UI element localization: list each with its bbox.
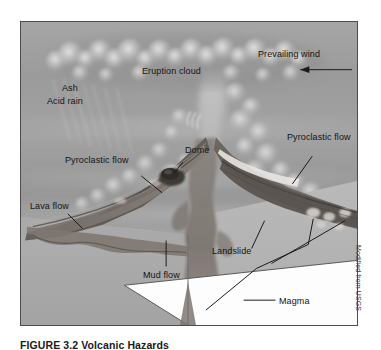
label-acid-rain: Acid rain [47, 96, 83, 107]
label-magma: Magma [279, 296, 310, 307]
label-mud-flow: Mud flow [143, 270, 180, 281]
lava-dome [159, 168, 185, 186]
source-credit: Modified from USGS [352, 245, 364, 335]
label-eruption-cloud: Eruption cloud [142, 66, 201, 77]
label-pyroclastic-flow-left: Pyroclastic flow [65, 155, 129, 166]
figure-caption-text: Volcanic Hazards [81, 339, 169, 350]
label-landslide: Landslide [212, 246, 251, 257]
label-ash: Ash [62, 83, 78, 94]
eruption-cloud [46, 34, 327, 88]
figure-image-frame: Prevailing wind Eruption cloud Ash Acid … [20, 21, 358, 326]
figure-caption-number: FIGURE 3.2 [20, 339, 78, 350]
label-pyroclastic-flow-right: Pyroclastic flow [287, 132, 351, 143]
figure-caption: FIGURE 3.2 Volcanic Hazards [20, 339, 360, 350]
label-prevailing-wind: Prevailing wind [258, 49, 320, 60]
figure-root: Prevailing wind Eruption cloud Ash Acid … [0, 0, 381, 350]
label-dome: Dome [185, 145, 209, 156]
label-lava-flow: Lava flow [30, 201, 69, 212]
